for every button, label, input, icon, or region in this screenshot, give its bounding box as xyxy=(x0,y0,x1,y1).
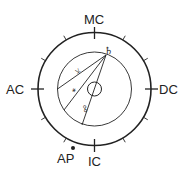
astrology-chart: ⚺ ⚹ ☍ ♄ MC AC DC IC AP xyxy=(0,0,186,176)
ap-point xyxy=(71,146,75,150)
label-mc: MC xyxy=(84,12,104,27)
aspect-line-3 xyxy=(82,55,106,125)
saturn-glyph: ♄ xyxy=(104,45,113,56)
aspect-glyph-semisextile: ⚹ xyxy=(69,86,78,95)
label-ap: AP xyxy=(57,151,74,166)
aspect-glyph-sextile: ⚺ xyxy=(73,67,82,76)
label-ac: AC xyxy=(6,82,24,97)
aspect-line-2 xyxy=(64,55,106,110)
label-dc: DC xyxy=(159,82,178,97)
label-ic: IC xyxy=(88,154,101,169)
